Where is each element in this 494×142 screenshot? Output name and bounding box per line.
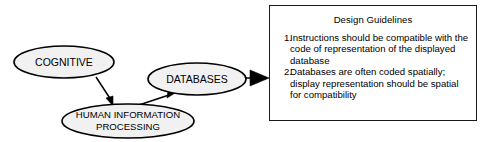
guideline-item: 2. Databases are often coded spatially; … [270,66,476,100]
node-cognitive[interactable]: COGNITIVE [14,46,114,78]
node-databases-label: DATABASES [166,73,227,85]
edge-databases-to-guidelines [245,70,269,86]
guideline-item: 1. Instructions should be compatible wit… [270,32,476,66]
design-guidelines-list: 1. Instructions should be compatible wit… [270,32,476,100]
node-human-information-processing-label-line2: PROCESSING [96,121,160,132]
edge-line-cognitive-to-hip [96,77,111,100]
arrowhead-databases-to-guidelines [250,70,269,86]
guideline-number: 2. [270,66,290,77]
node-databases[interactable]: DATABASES [148,63,246,95]
node-human-information-processing-label-line1: HUMAN INFORMATION [76,109,180,120]
node-human-information-processing[interactable]: HUMAN INFORMATION PROCESSING [62,104,194,138]
design-guidelines-title: Design Guidelines [270,14,476,25]
diagram-canvas: COGNITIVE DATABASES HUMAN INFORMATION PR… [0,0,494,142]
edge-cognitive-to-hip [96,77,113,106]
guideline-number: 1. [270,32,290,43]
node-cognitive-label: COGNITIVE [35,56,93,68]
guideline-text: Databases are often coded spatially; dis… [290,66,476,100]
guideline-text: Instructions should be compatible with t… [290,32,476,66]
design-guidelines-panel: Design Guidelines 1. Instructions should… [269,5,477,121]
